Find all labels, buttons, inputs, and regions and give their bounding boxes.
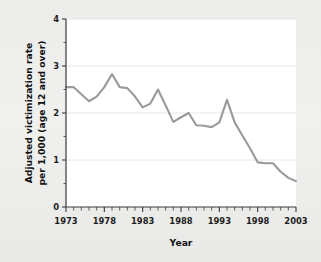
x-axis-tick-labels: 1973197819831988199319982003 <box>54 216 307 226</box>
x-tick-label: 1993 <box>208 216 231 226</box>
y-tick-label: 0 <box>53 202 59 212</box>
chart-figure: 01234 1973197819831988199319982003 Year … <box>0 0 321 262</box>
x-tick-label: 1998 <box>246 216 269 226</box>
x-axis-title: Year <box>169 237 193 248</box>
y-axis-tick-labels: 01234 <box>53 14 59 212</box>
line-chart: 01234 1973197819831988199319982003 Year … <box>0 0 321 262</box>
x-tick-label: 1988 <box>169 216 192 226</box>
x-tick-label: 1978 <box>93 216 116 226</box>
y-tick-label: 4 <box>53 14 59 24</box>
x-axis-ticks <box>66 207 296 212</box>
y-tick-label: 1 <box>53 155 59 165</box>
y-axis-title-line1: Adjusted victimization rate <box>23 43 34 184</box>
y-tick-label: 3 <box>53 61 59 71</box>
x-tick-label: 1973 <box>54 216 77 226</box>
x-tick-label: 1983 <box>131 216 154 226</box>
x-tick-label: 2003 <box>284 216 307 226</box>
y-tick-label: 2 <box>53 108 59 118</box>
y-axis-title-line2: per 1,000 (age 12 and over) <box>36 41 47 186</box>
